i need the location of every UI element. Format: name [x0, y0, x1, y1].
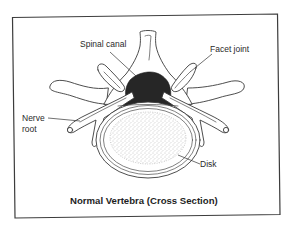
- label-nerve-root-line1: Nerve: [22, 113, 45, 123]
- label-spinal-canal: Spinal canal: [80, 39, 126, 49]
- label-facet-joint: Facet joint: [210, 44, 250, 54]
- label-nerve-root-line2: root: [22, 124, 37, 134]
- vertebra-diagram: Spinal canal Facet joint Nerve root Disk…: [0, 0, 293, 229]
- disk-nucleus: [110, 112, 186, 164]
- label-disk: Disk: [200, 159, 217, 169]
- right-nerve-root-end: [223, 127, 228, 132]
- left-nerve-root-end: [67, 127, 72, 132]
- figure-caption: Normal Vertebra (Cross Section): [70, 195, 218, 206]
